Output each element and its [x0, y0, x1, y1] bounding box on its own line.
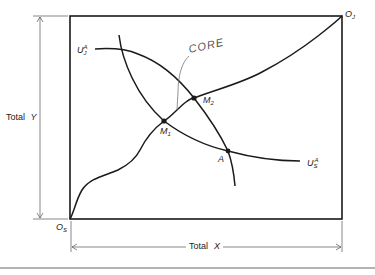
indifference-curve-j [95, 49, 235, 186]
m1-sub: 1 [168, 131, 171, 137]
point-m1 [161, 118, 166, 123]
origin-s-base: O [56, 222, 63, 232]
edgeworth-box-diagram [0, 0, 375, 275]
total-y-dimension [33, 16, 68, 219]
m1-label: M1 [160, 127, 171, 137]
indiff-j-label: UJA [77, 44, 88, 56]
indiff-s-sub: S [314, 163, 318, 169]
total-y-var: Y [31, 112, 37, 122]
point-a [226, 149, 231, 154]
total-y-text: Total [3, 112, 28, 122]
total-x-var: X [211, 241, 223, 251]
origin-j-base: O [345, 9, 352, 19]
point-m2 [191, 95, 196, 100]
a-label: A [218, 155, 224, 164]
indiff-s-label: USA [307, 157, 319, 169]
origin-s-sub: S [63, 227, 67, 233]
total-x-text: Total [186, 241, 211, 251]
m2-base: M [203, 95, 211, 105]
indiff-j-sub: J [84, 50, 87, 56]
origin-j-sub: J [352, 14, 355, 20]
indiff-j-sup: A [84, 44, 88, 50]
m2-sub: 2 [211, 100, 214, 106]
indiff-s-sup: A [315, 157, 319, 163]
m1-base: M [160, 126, 168, 136]
origin-s-label: OS [56, 223, 67, 233]
total-x-label: TotalX [186, 242, 223, 251]
total-y-label: Total Y [3, 113, 37, 122]
m2-label: M2 [203, 96, 214, 106]
origin-j-label: OJ [345, 10, 355, 20]
